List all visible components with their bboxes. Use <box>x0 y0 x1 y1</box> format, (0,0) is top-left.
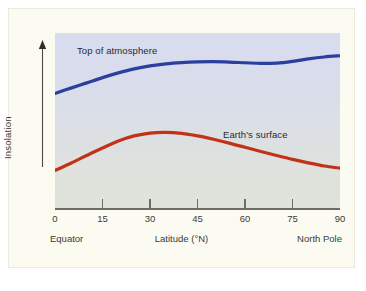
axis-caption-north-pole: North Pole <box>297 233 342 244</box>
plot-area: Top of atmosphere Earth's surface <box>55 33 340 208</box>
x-tick-75 <box>292 199 294 208</box>
x-tick-60 <box>244 199 246 208</box>
figure-card: Top of atmosphere Earth's surface 015304… <box>8 8 355 268</box>
y-axis-arrow-icon <box>37 39 48 167</box>
x-axis-label: Latitude (°N) <box>155 233 208 244</box>
x-tick-label-0: 0 <box>52 213 57 224</box>
x-axis-line <box>55 208 340 210</box>
x-tick-label-15: 15 <box>97 213 108 224</box>
x-tick-label-30: 30 <box>145 213 156 224</box>
x-tick-15 <box>102 199 104 208</box>
series-label-earths-surface: Earth's surface <box>223 129 288 140</box>
x-tick-label-90: 90 <box>335 213 346 224</box>
x-tick-30 <box>149 199 151 208</box>
x-tick-label-75: 75 <box>287 213 298 224</box>
curve-earths-surface <box>55 132 340 170</box>
y-axis-label: Insolation <box>2 116 13 159</box>
x-tick-45 <box>197 199 199 208</box>
series-label-top-of-atmosphere: Top of atmosphere <box>77 45 157 56</box>
axis-caption-equator: Equator <box>50 233 83 244</box>
x-tick-label-45: 45 <box>192 213 203 224</box>
x-tick-label-60: 60 <box>240 213 251 224</box>
curve-top-of-atmosphere <box>55 56 340 94</box>
chart-curves <box>55 33 340 208</box>
